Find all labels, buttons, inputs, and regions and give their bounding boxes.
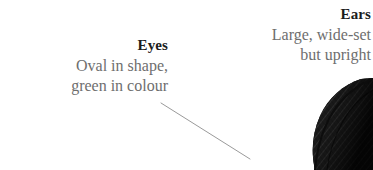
callout-eyes-line-2: green in colour [0,76,168,97]
leader-line-segment [161,103,250,159]
callout-eyes-heading: Eyes [0,36,168,56]
callout-ears: Ears Large, wide-set but upright [201,5,371,66]
callout-ears-line-1: Large, wide-set [201,25,371,46]
cat-ear-engraving-svg [285,78,373,170]
callout-eyes-line-1: Oval in shape, [0,56,168,77]
callout-ears-heading: Ears [201,5,371,25]
callout-eyes: Eyes Oval in shape, green in colour [0,36,168,97]
callout-ears-line-2: but upright [201,45,371,66]
annotated-illustration-page: Eyes Oval in shape, green in colour Ears… [0,0,373,170]
cat-ear-illustration [285,78,373,170]
